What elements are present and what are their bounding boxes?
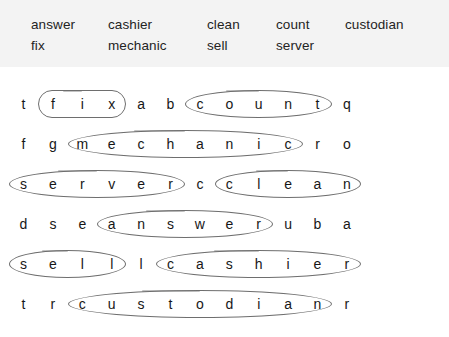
grid-cell[interactable]: o <box>332 129 361 159</box>
grid-cell[interactable]: a <box>274 289 303 319</box>
grid-cell[interactable]: s <box>38 209 67 239</box>
letter-grid-row: servercclean <box>0 169 449 209</box>
grid-cell[interactable]: e <box>127 169 156 199</box>
grid-cell[interactable]: e <box>215 209 244 239</box>
grid-cell[interactable]: l <box>244 169 273 199</box>
word-bank-item-answer[interactable]: answer <box>31 15 75 35</box>
grid-cell[interactable]: u <box>97 289 126 319</box>
grid-cell[interactable]: e <box>303 249 332 279</box>
grid-cell[interactable]: a <box>127 89 156 119</box>
grid-cell[interactable]: t <box>303 89 332 119</box>
word-bank-item-server[interactable]: server <box>276 36 314 56</box>
grid-cell[interactable]: t <box>156 289 185 319</box>
grid-cell[interactable]: v <box>97 169 126 199</box>
grid-cell[interactable]: r <box>38 289 67 319</box>
grid-cell[interactable]: i <box>274 249 303 279</box>
grid-cell[interactable]: n <box>127 209 156 239</box>
grid-cell[interactable]: a <box>332 209 361 239</box>
grid-cell[interactable]: e <box>38 169 67 199</box>
grid-cell[interactable]: m <box>68 129 97 159</box>
grid-cell[interactable]: i <box>244 129 273 159</box>
letter-grid-row: trcustodianr <box>0 289 449 329</box>
letter-grid-row: selllcashier <box>0 249 449 289</box>
word-bank-item-count[interactable]: count <box>276 15 310 35</box>
letter-grid: tfixabcountqfgmechanicroserverccleandsea… <box>0 67 449 337</box>
grid-cell[interactable]: r <box>332 249 361 279</box>
grid-cell[interactable]: n <box>332 169 361 199</box>
grid-cell[interactable]: n <box>274 89 303 119</box>
grid-cell[interactable]: e <box>274 169 303 199</box>
grid-cell[interactable]: h <box>244 249 273 279</box>
grid-cell[interactable]: s <box>9 249 38 279</box>
grid-cell[interactable]: r <box>332 289 361 319</box>
grid-cell[interactable]: i <box>68 89 97 119</box>
grid-cell[interactable]: d <box>9 209 38 239</box>
grid-cell[interactable]: n <box>215 129 244 159</box>
word-bank-item-clean[interactable]: clean <box>207 15 240 35</box>
grid-cell[interactable]: l <box>68 249 97 279</box>
grid-cell[interactable]: s <box>9 169 38 199</box>
grid-cell[interactable]: a <box>185 249 214 279</box>
grid-cell[interactable]: x <box>97 89 126 119</box>
grid-cell[interactable]: s <box>215 249 244 279</box>
grid-cell[interactable]: s <box>156 209 185 239</box>
letter-grid-row: fgmechanicro <box>0 129 449 169</box>
grid-cell[interactable]: b <box>156 89 185 119</box>
grid-cell[interactable]: n <box>303 289 332 319</box>
grid-cell[interactable]: a <box>185 129 214 159</box>
grid-cell[interactable]: e <box>38 249 67 279</box>
grid-cell[interactable]: i <box>244 289 273 319</box>
grid-cell[interactable]: o <box>215 89 244 119</box>
grid-cell[interactable]: c <box>215 169 244 199</box>
grid-cell[interactable]: r <box>303 129 332 159</box>
grid-cell[interactable]: c <box>274 129 303 159</box>
grid-cell[interactable]: c <box>185 169 214 199</box>
grid-cell[interactable]: q <box>332 89 361 119</box>
grid-cell[interactable]: e <box>68 209 97 239</box>
grid-cell[interactable]: e <box>97 129 126 159</box>
word-bank-item-fix[interactable]: fix <box>31 36 45 56</box>
grid-cell[interactable]: f <box>38 89 67 119</box>
grid-cell[interactable]: u <box>274 209 303 239</box>
grid-cell[interactable]: r <box>244 209 273 239</box>
grid-cell[interactable]: g <box>38 129 67 159</box>
grid-cell[interactable]: c <box>68 289 97 319</box>
word-bank-row: answercashiercleancountcustodian <box>0 15 449 35</box>
letter-grid-row: dseansweruba <box>0 209 449 249</box>
grid-cell[interactable]: t <box>9 89 38 119</box>
grid-cell[interactable]: r <box>68 169 97 199</box>
word-bank-item-mechanic[interactable]: mechanic <box>108 36 167 56</box>
grid-cell[interactable]: f <box>9 129 38 159</box>
grid-cell[interactable]: t <box>9 289 38 319</box>
grid-cell[interactable]: s <box>127 289 156 319</box>
word-bank-panel: answercashiercleancountcustodianfixmecha… <box>0 0 449 67</box>
grid-cell[interactable]: l <box>97 249 126 279</box>
letter-grid-row: tfixabcountq <box>0 89 449 129</box>
word-bank-item-sell[interactable]: sell <box>207 36 228 56</box>
grid-cell[interactable]: u <box>244 89 273 119</box>
grid-cell[interactable]: d <box>215 289 244 319</box>
grid-cell[interactable]: c <box>156 249 185 279</box>
grid-cell[interactable]: r <box>156 169 185 199</box>
word-bank-item-custodian[interactable]: custodian <box>345 15 404 35</box>
grid-cell[interactable]: l <box>127 249 156 279</box>
grid-cell[interactable]: c <box>127 129 156 159</box>
grid-cell[interactable]: c <box>185 89 214 119</box>
grid-cell[interactable]: a <box>303 169 332 199</box>
word-bank-item-cashier[interactable]: cashier <box>108 15 152 35</box>
grid-cell[interactable]: w <box>185 209 214 239</box>
grid-cell[interactable]: o <box>185 289 214 319</box>
grid-cell[interactable]: b <box>303 209 332 239</box>
grid-cell[interactable]: a <box>97 209 126 239</box>
grid-cell[interactable]: h <box>156 129 185 159</box>
word-bank-row: fixmechanicsellserver <box>0 36 449 56</box>
